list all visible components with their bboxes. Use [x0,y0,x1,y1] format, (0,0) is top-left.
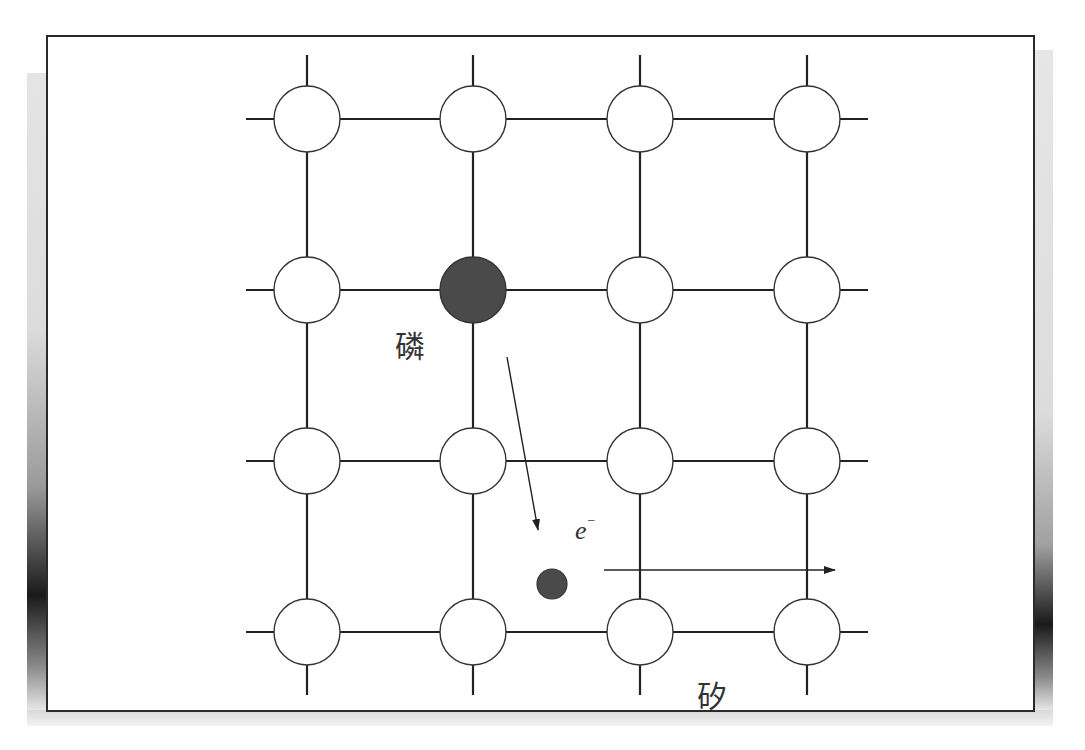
silicon-atom [440,599,506,665]
silicon-atom [440,428,506,494]
phosphorus-label: 磷 [395,322,425,366]
silicon-atom [774,86,840,152]
silicon-atom [607,599,673,665]
free-electron [537,569,567,599]
silicon-atom [274,599,340,665]
silicon-label: 矽 [697,672,727,716]
silicon-atom [274,86,340,152]
electron-label: e− [575,516,596,546]
silicon-atom [274,428,340,494]
silicon-lattice-diagram [0,0,1085,750]
silicon-atom [274,257,340,323]
silicon-atom [607,428,673,494]
electron-charge: − [587,513,596,528]
silicon-atom [774,599,840,665]
silicon-atom [440,86,506,152]
silicon-atom [607,257,673,323]
silicon-atom [607,86,673,152]
phosphorus-atom [440,257,506,323]
silicon-atom [774,428,840,494]
silicon-atom [774,257,840,323]
release-arrow-icon [507,357,538,530]
electron-symbol: e [575,516,587,545]
